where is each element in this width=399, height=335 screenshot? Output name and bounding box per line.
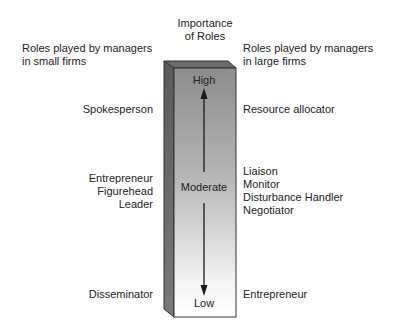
role-label: Disseminator [89,288,153,301]
scale-moderate: Moderate [174,181,234,193]
role-label: Monitor [243,178,343,191]
role-label: Leader [89,198,153,211]
role-label: Liaison [243,165,343,178]
scale-low: Low [174,297,234,309]
role-label: Entrepreneur [243,288,307,301]
role-label: Entrepreneur [89,172,153,185]
large-firms-low: Entrepreneur [243,288,307,301]
small-firms-high: Spokesperson [83,103,153,116]
scale-high: High [174,74,234,86]
role-label: Disturbance Handler [243,191,343,204]
role-label: Spokesperson [83,103,153,116]
role-label: Negotiator [243,204,343,217]
role-label: Figurehead [89,185,153,198]
large-firms-high: Resource allocator [243,103,335,116]
bar-top-face [164,61,236,68]
small-firms-low: Disseminator [89,288,153,301]
large-firms-moderate: Liaison Monitor Disturbance Handler Nego… [243,165,343,217]
small-firms-moderate: Entrepreneur Figurehead Leader [89,172,153,211]
role-label: Resource allocator [243,103,335,116]
bar-side-face [164,61,174,317]
